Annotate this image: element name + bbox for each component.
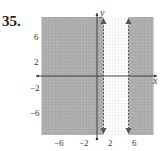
x-tick-label: −6 <box>54 138 64 148</box>
x-tick-label: 2 <box>108 138 113 148</box>
x-tick-label: −2 <box>79 138 89 148</box>
y-axis-label: y <box>99 7 105 18</box>
y-tick-label: −6 <box>30 108 40 118</box>
y-tick-label: 2 <box>34 57 39 67</box>
x-tick-label: 6 <box>132 138 137 148</box>
graph: y x −6 −2 2 6 6 2 −2 −6 <box>0 0 163 151</box>
x-axis-label: x <box>152 75 158 86</box>
y-tick-label: 6 <box>34 32 39 42</box>
y-tick-label: −2 <box>30 83 40 93</box>
